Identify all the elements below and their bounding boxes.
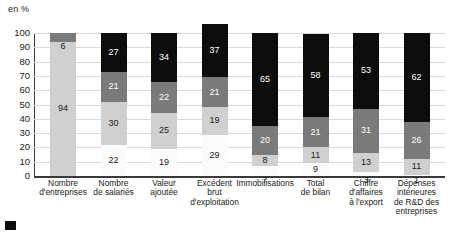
y-tick-label: 10	[4, 157, 30, 167]
y-tick-label: 50	[4, 100, 30, 110]
bar-segment-value: 21	[310, 128, 320, 137]
bar-segment: 19	[151, 149, 177, 176]
bar-segment: 7	[252, 166, 278, 176]
bar[interactable]: 22302127	[101, 33, 127, 176]
bar-segment: 26	[404, 122, 430, 159]
bar-segment: 9	[303, 163, 329, 176]
y-tick-label: 30	[4, 128, 30, 138]
bar-segment-value: 11	[311, 151, 320, 160]
y-tick-label: 20	[4, 142, 30, 152]
category-label-line: d'exploitation	[184, 198, 246, 207]
bar-segment-value: 58	[310, 71, 320, 80]
bar-segment-value: 25	[159, 126, 169, 135]
bar-segment: 31	[353, 109, 379, 153]
bar-segment-value: 21	[108, 82, 118, 91]
bar-segment-value: 19	[159, 158, 169, 167]
bar-segment-value: 65	[260, 75, 270, 84]
bar-segment: 34	[151, 33, 177, 82]
bar-segment: 13	[353, 153, 379, 172]
bar-segment: 20	[252, 126, 278, 155]
bar-segment-value: 34	[159, 53, 169, 62]
y-tick-label: 80	[4, 57, 30, 67]
bar-segment-value: 22	[108, 156, 118, 165]
bar-segment-value: 21	[209, 88, 219, 97]
bar-segment: 11	[404, 159, 430, 175]
y-tick-label: 70	[4, 71, 30, 81]
y-tick-label: 40	[4, 114, 30, 124]
bar-segment: 21	[202, 77, 228, 107]
y-tick-label: 100	[4, 28, 30, 38]
bar[interactable]: 19252234	[151, 33, 177, 176]
bar-segment: 6	[50, 33, 76, 42]
bar-segment: 22	[101, 145, 127, 176]
bar-segment: 27	[101, 33, 127, 72]
bar-segment: 1	[404, 175, 430, 176]
bar-segment-value: 22	[159, 93, 169, 102]
bar[interactable]: 1112662	[404, 33, 430, 176]
bar-segment-value: 20	[260, 136, 270, 145]
bar-segment-value: 6	[60, 42, 65, 51]
bar-segment-value: 31	[361, 126, 371, 135]
bar-segment: 37	[202, 24, 228, 77]
bar-segment-value: 37	[209, 46, 219, 55]
bar-segment: 65	[252, 33, 278, 126]
bar-segment-value: 13	[361, 158, 371, 167]
bar-segment: 53	[353, 33, 379, 109]
bar-segment: 8	[252, 155, 278, 166]
bars-container: 9462230212719252234291921377820659112158…	[34, 33, 445, 176]
bar-segment-value: 11	[412, 162, 421, 171]
bar-segment: 30	[101, 102, 127, 145]
bar-segment-value: 9	[313, 165, 318, 174]
bar[interactable]: 29192137	[202, 33, 228, 176]
bar-segment: 19	[202, 107, 228, 134]
category-labels: Nombred'entreprisesNombrede salariésVale…	[34, 179, 445, 237]
bar-segment: 29	[202, 135, 228, 176]
bar-segment-value: 29	[209, 151, 219, 160]
bar-segment-value: 53	[361, 66, 371, 75]
bar-segment: 21	[101, 72, 127, 102]
bar-segment-value: 26	[411, 136, 421, 145]
bar-segment: 62	[404, 33, 430, 122]
bar-segment: 11	[303, 147, 329, 163]
bar-segment: 58	[303, 34, 329, 117]
category-label: Dépensesintérieuresde R&D desentreprises	[386, 179, 448, 217]
bar[interactable]: 946	[50, 33, 76, 176]
y-axis-tick-labels: 1009080706050403020100	[0, 33, 30, 176]
bar-segment: 3	[353, 172, 379, 176]
corner-square-marker	[5, 221, 16, 230]
bar[interactable]: 3133153	[353, 33, 379, 176]
y-tick-label: 0	[4, 171, 30, 181]
bar-segment-value: 8	[262, 156, 267, 165]
bar-segment-value: 30	[108, 119, 118, 128]
category-label-line: entreprises	[386, 207, 448, 216]
y-tick-label: 60	[4, 85, 30, 95]
bar-segment: 25	[151, 113, 177, 149]
bar-segment-value: 94	[58, 104, 68, 113]
stacked-bar-chart: en % 1009080706050403020100 946223021271…	[0, 0, 449, 240]
bar-segment-value: 27	[108, 48, 118, 57]
bar-segment: 21	[303, 117, 329, 147]
bar-segment: 94	[50, 42, 76, 176]
bar[interactable]: 9112158	[303, 33, 329, 176]
bar[interactable]: 782065	[252, 33, 278, 176]
bar-segment-value: 62	[411, 73, 421, 82]
bar-segment-value: 19	[209, 116, 219, 125]
y-axis-unit-label: en %	[8, 4, 29, 14]
y-tick-label: 90	[4, 42, 30, 52]
bar-segment: 22	[151, 82, 177, 113]
